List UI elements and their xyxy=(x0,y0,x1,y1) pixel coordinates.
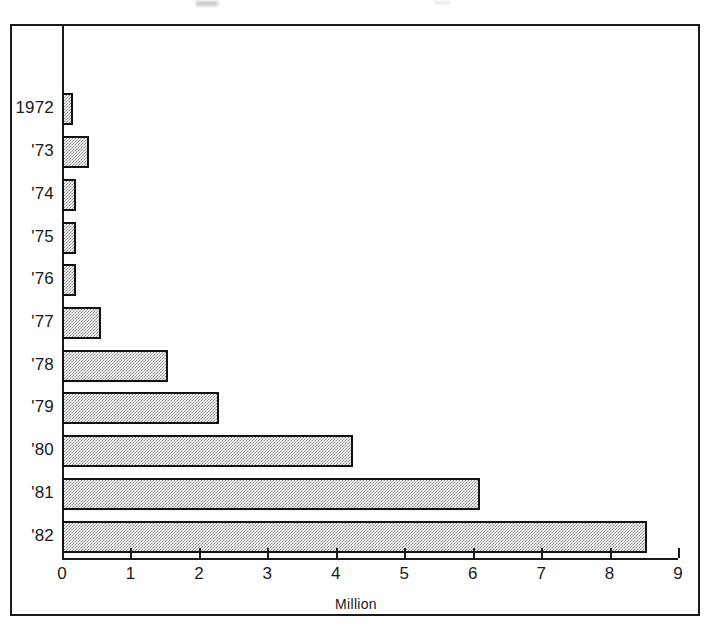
bar xyxy=(62,179,76,211)
x-axis-title: Million xyxy=(0,596,712,612)
x-axis-line xyxy=(62,558,678,560)
bar-row xyxy=(62,131,678,174)
bar-row xyxy=(62,302,678,345)
y-axis-tick-label: '82 xyxy=(31,526,54,546)
x-axis-tick xyxy=(267,548,269,558)
x-axis-tick xyxy=(130,548,132,558)
x-axis-tick-label: 0 xyxy=(57,564,66,584)
x-axis-tick xyxy=(199,548,201,558)
bar-row xyxy=(62,173,678,216)
x-axis-tick-label: 5 xyxy=(399,564,408,584)
x-axis-tick xyxy=(473,548,475,558)
y-axis-tick-label: '74 xyxy=(31,184,54,204)
x-axis-tick xyxy=(541,548,543,558)
bar xyxy=(62,93,73,125)
bar-row xyxy=(62,430,678,473)
bar xyxy=(62,435,353,467)
y-axis-tick-label: '79 xyxy=(31,397,54,417)
y-axis-tick-label: 1972 xyxy=(15,98,54,118)
x-axis-tick-label: 6 xyxy=(468,564,477,584)
y-axis-tick-label: '76 xyxy=(31,269,54,289)
y-axis-tick-label: '80 xyxy=(31,440,54,460)
x-axis-tick xyxy=(62,548,64,558)
y-axis-tick-label: '77 xyxy=(31,312,54,332)
bar xyxy=(62,264,76,296)
x-axis-tick-label: 1 xyxy=(126,564,135,584)
bar xyxy=(62,222,76,254)
x-axis-tick-label: 2 xyxy=(194,564,203,584)
x-axis-tick-label: 9 xyxy=(673,564,682,584)
x-axis-tick-label: 7 xyxy=(536,564,545,584)
bar xyxy=(62,350,168,382)
y-axis-tick-label: '78 xyxy=(31,355,54,375)
scan-artifact-mark-secondary xyxy=(434,1,450,4)
bar xyxy=(62,136,89,168)
y-axis-tick-label: '73 xyxy=(31,141,54,161)
bar xyxy=(62,392,219,424)
x-axis-ticks xyxy=(62,548,678,558)
bar-row xyxy=(62,88,678,131)
x-axis-tick xyxy=(678,548,680,558)
scan-artifact-mark xyxy=(196,1,218,6)
bar xyxy=(62,307,101,339)
x-axis-tick-label: 8 xyxy=(605,564,614,584)
y-axis-tick-label: '75 xyxy=(31,227,54,247)
x-axis-tick-label: 3 xyxy=(263,564,272,584)
bar-row xyxy=(62,344,678,387)
x-axis-tick xyxy=(404,548,406,558)
bar-row xyxy=(62,216,678,259)
bar-series xyxy=(62,88,678,558)
bar xyxy=(62,478,480,510)
bar-row xyxy=(62,473,678,516)
y-axis-tick-label: '81 xyxy=(31,483,54,503)
x-axis-tick-label: 4 xyxy=(331,564,340,584)
y-axis-tick-labels: 1972'73'74'75'76'77'78'79'80'81'82 xyxy=(0,88,58,558)
x-axis-tick xyxy=(610,548,612,558)
bar-chart-figure: 1972'73'74'75'76'77'78'79'80'81'82 Milli… xyxy=(0,0,712,630)
bar-row xyxy=(62,259,678,302)
x-axis-tick xyxy=(336,548,338,558)
bar-row xyxy=(62,387,678,430)
